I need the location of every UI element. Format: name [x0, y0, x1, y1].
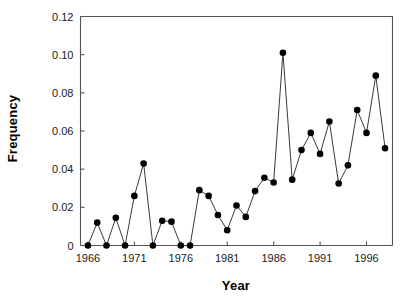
data-point	[372, 72, 379, 79]
data-point	[205, 193, 212, 200]
y-tick-label: 0.02	[52, 201, 73, 213]
data-point	[224, 227, 231, 234]
data-point	[382, 145, 389, 152]
plot-canvas: 00.020.040.060.080.100.12196619711976198…	[0, 0, 413, 303]
plot-frame	[81, 17, 393, 246]
data-point	[196, 187, 203, 194]
data-point	[307, 130, 314, 137]
x-tick-label: 1991	[308, 252, 332, 264]
data-point	[94, 219, 101, 226]
x-tick-label: 1981	[215, 252, 239, 264]
x-axis-title: Year	[80, 278, 392, 293]
y-tick-label: 0	[67, 240, 73, 252]
x-tick-label: 1986	[261, 252, 285, 264]
data-point	[363, 130, 370, 137]
data-point	[85, 242, 92, 249]
data-point	[177, 242, 184, 249]
x-tick-label: 1971	[122, 252, 146, 264]
x-tick-label: 1976	[169, 252, 193, 264]
data-point	[354, 107, 361, 114]
data-point	[103, 242, 110, 249]
data-point	[270, 179, 277, 186]
x-tick-label: 1966	[76, 252, 100, 264]
series-line-frequency	[88, 53, 385, 246]
y-tick-label: 0.04	[52, 163, 73, 175]
data-point	[326, 118, 333, 125]
data-point	[233, 202, 240, 209]
data-point	[280, 49, 287, 56]
data-point	[335, 180, 342, 187]
data-point	[150, 242, 157, 249]
data-point	[159, 217, 166, 224]
data-point	[131, 193, 138, 200]
data-point	[298, 147, 305, 154]
data-point	[252, 188, 259, 195]
data-point	[345, 162, 352, 169]
data-point	[140, 160, 147, 167]
data-point	[187, 242, 194, 249]
x-tick-label: 1996	[354, 252, 378, 264]
data-point	[317, 151, 324, 158]
data-point	[215, 212, 222, 219]
y-tick-label: 0.10	[52, 49, 73, 61]
data-point	[122, 242, 129, 249]
data-point	[168, 218, 175, 225]
data-point	[112, 215, 119, 222]
y-tick-label: 0.08	[52, 87, 73, 99]
data-point	[242, 214, 249, 221]
frequency-by-year-chart: Frequency 00.020.040.060.080.100.1219661…	[0, 0, 413, 303]
y-tick-label: 0.06	[52, 125, 73, 137]
y-tick-label: 0.12	[52, 11, 73, 23]
data-point	[289, 176, 296, 183]
data-point	[261, 174, 268, 181]
